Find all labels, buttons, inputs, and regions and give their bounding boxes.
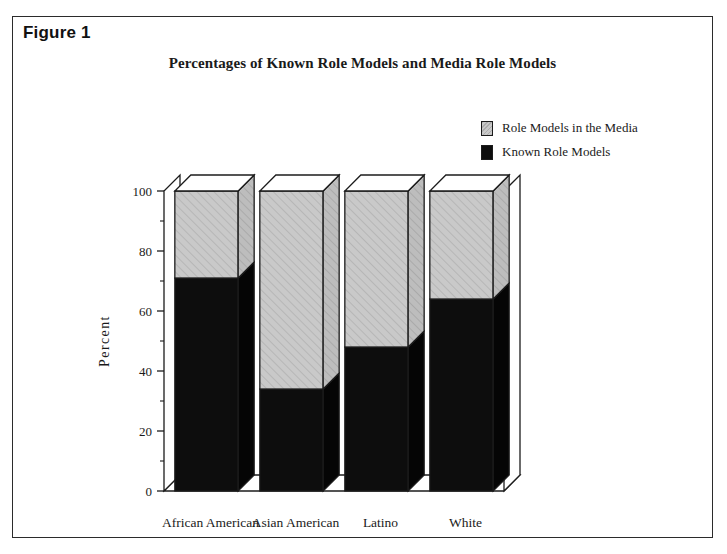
- x-axis-category-label: Latino: [363, 515, 398, 530]
- bar-segment-media: [260, 191, 323, 389]
- bar-side-known: [238, 262, 254, 491]
- bar-chart-svg: African AmericanAsian AmericanLatinoWhit…: [13, 17, 714, 539]
- bar-side-known: [323, 373, 339, 491]
- bar-group: [430, 175, 509, 491]
- y-axis-tick-label: 40: [139, 364, 152, 379]
- bar-segment-known: [430, 299, 493, 491]
- bar-group: [345, 175, 424, 491]
- x-axis-category-label: African American: [162, 515, 259, 530]
- bar-side-known: [408, 331, 424, 491]
- y-axis-tick-label: 60: [139, 304, 152, 319]
- chart-geometry: African AmericanAsian AmericanLatinoWhit…: [97, 175, 520, 530]
- bar-segment-known: [260, 389, 323, 491]
- y-axis-tick-label: 20: [139, 424, 152, 439]
- bar-side-media: [493, 175, 509, 299]
- y-axis-tick-label: 0: [146, 484, 153, 499]
- y-axis-tick-label: 80: [139, 244, 152, 259]
- figure-frame: Figure 1 Percentages of Known Role Model…: [12, 16, 713, 538]
- bar-segment-known: [345, 347, 408, 491]
- x-axis-category-label: White: [449, 515, 482, 530]
- plot-area: African AmericanAsian AmericanLatinoWhit…: [13, 17, 714, 539]
- bar-side-media: [238, 175, 254, 278]
- bar-segment-media: [430, 191, 493, 299]
- bar-side-media: [408, 175, 424, 347]
- bar-group: [175, 175, 254, 491]
- y-axis-tick-label: 100: [133, 184, 153, 199]
- bar-segment-media: [345, 191, 408, 347]
- bar-segment-media: [175, 191, 238, 278]
- bar-side-media: [323, 175, 339, 389]
- bar-side-known: [493, 283, 509, 491]
- y-axis-title: Percent: [97, 315, 112, 367]
- bar-segment-known: [175, 278, 238, 491]
- x-axis-category-label: Asian American: [252, 515, 340, 530]
- bar-group: [260, 175, 339, 491]
